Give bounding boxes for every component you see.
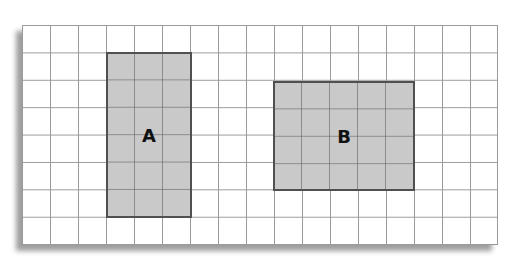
rectangle-a: A xyxy=(106,52,192,218)
rectangle-b-label: B xyxy=(275,126,413,147)
grid-paper: A B xyxy=(22,25,498,245)
grid-lines xyxy=(22,25,498,245)
rectangle-b: B xyxy=(273,81,415,191)
rectangle-a-label: A xyxy=(108,125,190,146)
